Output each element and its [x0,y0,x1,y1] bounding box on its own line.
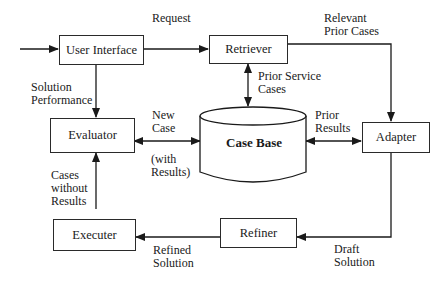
refiner-node: Refiner [220,218,297,248]
user-interface-label: User Interface [66,43,137,58]
adapter-node: Adapter [362,122,430,153]
evaluator-label: Evaluator [68,128,117,143]
user-interface-node: User Interface [59,35,144,65]
new-case-label-2: Case [152,122,175,135]
solution-performance-label-2: Performance [31,94,92,107]
case-base-label: Case Base [226,135,282,151]
draft-solution-label-2: Solution [334,256,375,269]
prior-results-label-2: Results [315,122,350,135]
prior-service-cases-label-2: Cases [258,83,286,96]
refined-solution-label-2: Solution [153,257,194,270]
relevant-prior-cases-label-2: Prior Cases [324,25,379,38]
retriever-label: Retriever [225,42,272,57]
executer-label: Executer [72,228,116,243]
executer-node: Executer [53,219,136,251]
evaluator-node: Evaluator [50,118,135,153]
adapter-label: Adapter [376,130,416,145]
refiner-label: Refiner [240,226,277,241]
with-results-label-2: Results) [151,166,190,179]
draft-solution-arrow [297,152,391,237]
retriever-node: Retriever [209,35,288,64]
cases-without-results-label-3: Results [51,195,86,208]
request-label: Request [152,12,191,25]
